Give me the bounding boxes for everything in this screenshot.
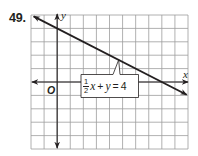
origin-label: O	[47, 84, 55, 96]
y-axis-label: y	[61, 9, 66, 21]
x-axis-label: x	[183, 68, 188, 80]
fraction-one-half: 1 2	[83, 78, 89, 95]
equation-label: 1 2 x + y = 4	[83, 75, 127, 97]
graph-figure: 49. y x O 1 2 x + y = 4	[0, 0, 198, 156]
